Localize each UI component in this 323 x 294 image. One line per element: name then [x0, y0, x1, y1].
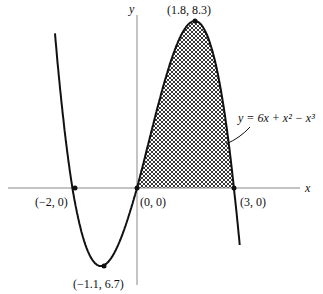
equation-label: y = 6x + x² − x³ — [237, 111, 315, 125]
point-neg2-0 — [73, 186, 78, 191]
point-label-0-0: (0, 0) — [140, 195, 166, 209]
point-max — [193, 19, 198, 24]
point-0-0 — [135, 186, 140, 191]
x-axis-label: x — [304, 181, 311, 195]
point-label-neg2-0: (−2, 0) — [35, 195, 68, 209]
shaded-area-region — [137, 21, 234, 188]
equation-pointer-arrow — [226, 127, 250, 144]
point-label-max: (1.8, 8.3) — [167, 3, 211, 17]
point-3-0 — [232, 186, 237, 191]
point-label-3-0: (3, 0) — [240, 195, 266, 209]
point-label-min: (−1.1, 6.7) — [73, 277, 124, 291]
function-graph: x y (−2, 0) (0, 0) (3, 0) (1.8, 8.3) (−1… — [0, 0, 323, 294]
y-axis-label: y — [128, 2, 135, 16]
point-min — [102, 264, 107, 269]
